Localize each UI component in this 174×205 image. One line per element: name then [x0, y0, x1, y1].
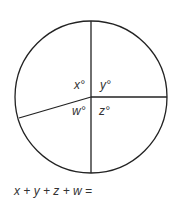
angle-label-y: y°	[99, 78, 111, 92]
circle-diagram: x° y° w° z°	[0, 0, 174, 205]
angle-label-w: w°	[72, 104, 86, 118]
angle-label-z: z°	[98, 104, 110, 118]
equation-text: x + y + z + w =	[14, 184, 92, 198]
angle-label-x: x°	[73, 78, 85, 92]
